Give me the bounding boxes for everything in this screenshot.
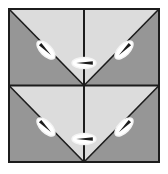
diagram-canvas [0,0,168,174]
marker-bottom-center [72,134,96,145]
marker-top-center [72,58,96,69]
tiling-diagram [0,0,168,174]
